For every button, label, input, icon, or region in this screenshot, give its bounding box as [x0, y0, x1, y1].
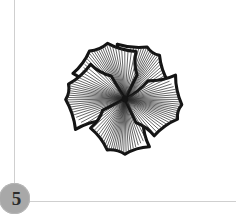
- flower-illustration: [55, 33, 195, 167]
- vertical-guide-rule: [14, 0, 15, 186]
- step-number-badge[interactable]: 5: [0, 183, 30, 214]
- flower-center: [122, 96, 129, 103]
- step-number-label: 5: [8, 189, 22, 208]
- illustration-canvas: 5: [0, 0, 236, 214]
- horizontal-guide-rule: [28, 201, 236, 202]
